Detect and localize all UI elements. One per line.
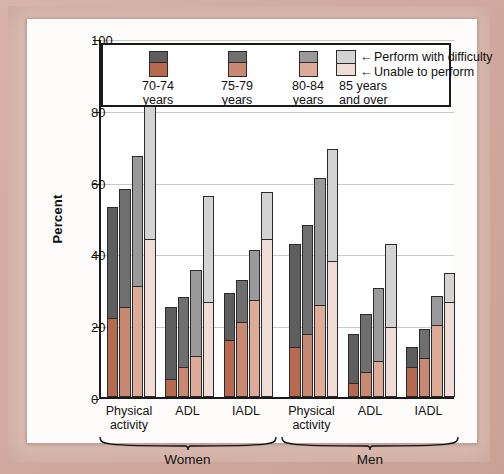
bar-segment-unable — [444, 302, 456, 397]
bar — [224, 293, 236, 397]
bar-segment-difficulty — [249, 250, 261, 300]
bar-segment-unable — [327, 261, 339, 397]
legend-key-row-unable: ←Unable to perform — [360, 65, 493, 78]
bar — [289, 244, 301, 397]
bar-segment-unable — [236, 322, 248, 397]
bar-segment-unable — [406, 367, 418, 398]
bar-segment-unable — [302, 334, 314, 397]
bar-segment-unable — [132, 286, 144, 397]
legend-key-label-unable: Unable to perform — [374, 65, 474, 79]
x-axis-group-label: Men — [280, 452, 460, 467]
bar-segment-unable — [249, 300, 261, 397]
bar-segment-unable — [314, 305, 326, 397]
bar — [261, 192, 273, 397]
bar — [236, 280, 248, 397]
legend-swatch-unable — [299, 62, 318, 77]
legend-swatch-unable — [149, 62, 168, 77]
legend-item: 70-74 years — [121, 51, 195, 107]
bar — [444, 273, 456, 397]
bar-segment-unable — [360, 372, 372, 397]
bar-segment-difficulty — [302, 225, 314, 334]
bar-segment-difficulty — [360, 314, 372, 371]
legend-item-label: 70-74 years — [121, 79, 195, 107]
x-axis-category-label: Physical activity — [281, 404, 342, 432]
x-axis-category-label: Physical activity — [99, 404, 160, 432]
bar-segment-difficulty — [178, 297, 190, 367]
x-axis-category-label: ADL — [157, 404, 218, 418]
y-axis-title: Percent — [50, 194, 65, 243]
x-axis-group-label: Women — [98, 452, 278, 467]
x-axis-category-label: IADL — [398, 404, 459, 418]
bar — [144, 106, 156, 397]
chart-card: Percent 020406080100 Physical activityAD… — [26, 18, 478, 444]
group-brace — [280, 437, 460, 450]
bar-segment-difficulty — [444, 273, 456, 302]
legend-key-row-difficulty: ←Perform with difficulty — [360, 50, 493, 63]
bar — [406, 347, 418, 397]
bar-segment-difficulty — [385, 244, 397, 327]
x-axis-category-label: ADL — [340, 404, 401, 418]
bar-segment-difficulty — [373, 288, 385, 362]
bar-segment-difficulty — [190, 270, 202, 356]
bar-segment-difficulty — [348, 334, 360, 382]
legend-key-swatch — [336, 50, 356, 76]
bar-segment-difficulty — [314, 178, 326, 305]
bar — [419, 329, 431, 397]
legend-item-label: 85 years and over — [339, 79, 413, 107]
bar-segment-difficulty — [327, 149, 339, 260]
bar-segment-difficulty — [431, 296, 443, 325]
legend-item: 75-79 years — [200, 51, 274, 107]
legend-key-label-difficulty: Perform with difficulty — [374, 50, 493, 64]
bar-segment-unable — [385, 327, 397, 397]
legend: 70-74 years75-79 years80-84 years85 year… — [101, 43, 451, 107]
bar-segment-unable — [178, 367, 190, 398]
y-axis-tick-mark — [93, 255, 99, 256]
legend-item: 80-84 years — [271, 51, 345, 107]
bar-segment-unable — [431, 325, 443, 397]
bar-segment-unable — [348, 383, 360, 397]
x-axis-category-label: IADL — [216, 404, 277, 418]
legend-key-swatch-difficulty — [336, 50, 356, 63]
bar — [348, 334, 360, 397]
bar-segment-unable — [203, 302, 215, 397]
legend-swatch-difficulty — [149, 51, 168, 62]
legend-swatch-difficulty — [228, 51, 247, 62]
y-axis-tick-mark — [93, 40, 99, 41]
legend-item-label: 75-79 years — [200, 79, 274, 107]
y-axis-tick-mark — [93, 184, 99, 185]
arrow-left-icon: ← — [360, 50, 374, 64]
bar-segment-difficulty — [144, 106, 156, 239]
y-axis-tick-mark — [93, 399, 99, 400]
bar — [178, 296, 190, 397]
bar — [302, 225, 314, 397]
bar — [314, 178, 326, 397]
bar-segment-unable — [289, 347, 301, 397]
bar-segment-difficulty — [261, 192, 273, 239]
bar-segment-difficulty — [406, 347, 418, 367]
bar — [385, 244, 397, 397]
bar-segment-difficulty — [419, 329, 431, 358]
bar — [431, 296, 443, 397]
bar — [107, 207, 119, 397]
bar-segment-difficulty — [236, 280, 248, 321]
legend-key-swatch-unable — [336, 63, 356, 76]
bar — [190, 270, 202, 397]
bar-segment-unable — [419, 358, 431, 397]
bar-segment-unable — [119, 307, 131, 397]
legend-item-label: 80-84 years — [271, 79, 345, 107]
bar-segment-unable — [144, 239, 156, 397]
bar — [132, 156, 144, 397]
bar — [203, 196, 215, 397]
bar — [360, 314, 372, 397]
bar-segment-difficulty — [165, 307, 177, 379]
legend-swatch-difficulty — [299, 51, 318, 62]
chart-figure: Percent 020406080100 Physical activityAD… — [0, 0, 504, 474]
bar — [165, 307, 177, 397]
legend-swatch-unable — [228, 62, 247, 77]
bar-segment-unable — [165, 379, 177, 397]
bar — [119, 189, 131, 397]
bar-segment-unable — [107, 318, 119, 397]
bar-segment-difficulty — [132, 156, 144, 285]
bar-segment-difficulty — [224, 293, 236, 340]
bar-segment-unable — [373, 361, 385, 397]
